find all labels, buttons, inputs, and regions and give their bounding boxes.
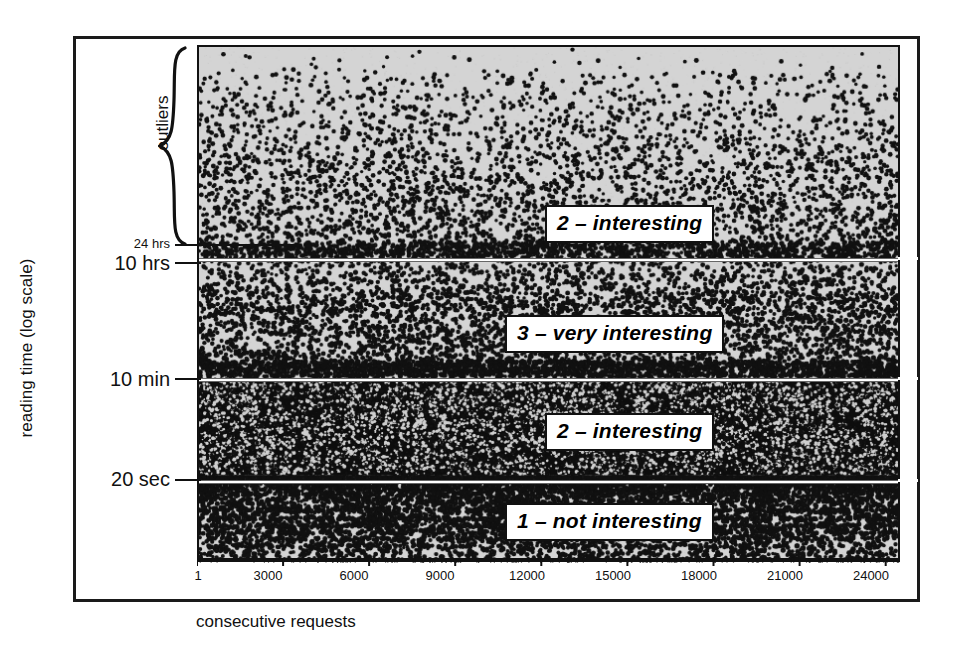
x-tick-label-12000: 12000 (494, 568, 560, 583)
y-tick-label-24hrs: 24 hrs (38, 236, 170, 251)
y-tick-leader-24hrs (175, 244, 295, 246)
x-tick-label-24000: 24000 (838, 568, 904, 583)
band-divider-20sec-extension (898, 479, 918, 482)
x-tick-label-3000: 3000 (238, 568, 298, 583)
x-tick-label-18000: 18000 (666, 568, 732, 583)
band-divider-20sec (199, 480, 900, 484)
y-tick-label-20sec: 20 sec (28, 468, 170, 491)
x-tick-label-15000: 15000 (580, 568, 646, 583)
region-label-not-interesting: 1 – not interesting (505, 503, 714, 541)
band-divider-10hrs-extension (898, 257, 918, 260)
x-axis-tick-marks (197, 558, 900, 568)
y-tick-leader-10min (175, 378, 201, 380)
x-tick-label-6000: 6000 (324, 568, 384, 583)
region-label-very-interesting: 3 – very interesting (505, 315, 724, 353)
x-tick-label-21000: 21000 (752, 568, 818, 583)
region-label-interesting: 2 – interesting (545, 413, 714, 451)
figure-root: reading time (log scale) outliers 24 hrs… (0, 0, 959, 658)
x-tick-label-9000: 9000 (410, 568, 470, 583)
region-label-outliers-interesting: 2 – interesting (545, 205, 714, 243)
y-tick-label-10hrs: 10 hrs (28, 252, 170, 275)
y-tick-leader-20sec (175, 479, 201, 481)
y-tick-label-10min: 10 min (28, 368, 170, 391)
band-divider-10hrs (199, 258, 900, 262)
outliers-brace-icon (158, 46, 188, 246)
x-tick-label-1: 1 (178, 568, 218, 583)
y-axis-title: reading time (log scale) (17, 198, 37, 498)
band-divider-10min-extension (898, 377, 918, 380)
y-tick-leader-10hrs (175, 262, 201, 264)
x-axis-title: consecutive requests (196, 612, 356, 632)
plot-area[interactable]: 2 – interesting 3 – very interesting 2 –… (197, 45, 900, 562)
band-divider-10min (199, 378, 900, 382)
